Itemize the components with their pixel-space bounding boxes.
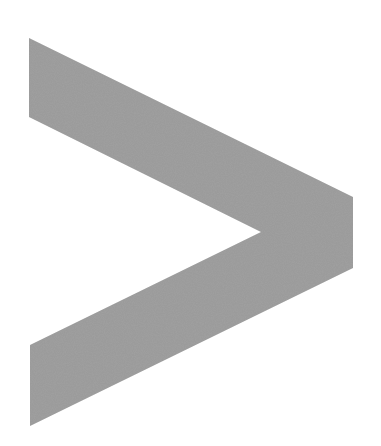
chevron-right-icon — [0, 0, 381, 446]
chevron-right-button[interactable]: Next — [0, 0, 381, 446]
chevron-shape — [29, 38, 353, 426]
